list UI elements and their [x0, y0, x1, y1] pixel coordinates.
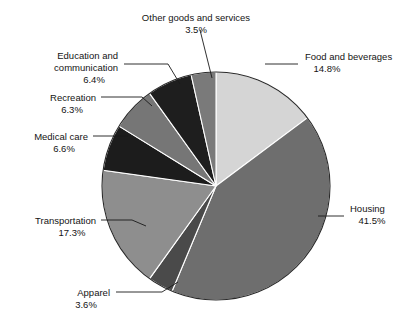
slice-label-percent: 14.8%: [314, 63, 341, 74]
slice-label: Recreation6.3%: [50, 92, 96, 115]
slice-label-name: Education and: [57, 50, 118, 61]
slice-label: Housing41.5%: [350, 203, 386, 226]
slice-label-name: Medical care: [34, 131, 88, 142]
slice-label-name: Housing: [350, 203, 385, 214]
slice-label: Apparel3.6%: [75, 287, 110, 310]
pie-chart-page: Food and beverages14.8%Housing41.5%Appar…: [0, 0, 416, 326]
slice-label: Medical care6.6%: [34, 131, 88, 154]
slice-label-percent: 6.6%: [53, 143, 75, 154]
slice-label-name: communication: [54, 62, 118, 73]
slice-label-name: Transportation: [35, 215, 96, 226]
slice-label-percent: 6.4%: [83, 74, 105, 85]
pie-chart: Food and beverages14.8%Housing41.5%Appar…: [0, 0, 416, 326]
slice-label: Food and beverages14.8%: [305, 51, 392, 74]
leader-line: [200, 30, 212, 78]
slice-label-percent: 41.5%: [359, 215, 386, 226]
slice-label-name: Other goods and services: [142, 12, 251, 23]
slice-label-name: Apparel: [77, 287, 110, 298]
slice-label-name: Recreation: [50, 92, 96, 103]
slice-label-percent: 17.3%: [59, 227, 86, 238]
slice-label: Education andcommunication6.4%: [54, 50, 118, 85]
slice-label: Transportation17.3%: [35, 215, 96, 238]
slice-label-percent: 3.6%: [75, 299, 97, 310]
slice-label: Other goods and services3.5%: [142, 12, 251, 35]
slice-label-percent: 3.5%: [185, 24, 207, 35]
slice-label-name: Food and beverages: [305, 51, 392, 62]
slice-label-percent: 6.3%: [61, 104, 83, 115]
pie-slices: [102, 72, 330, 300]
